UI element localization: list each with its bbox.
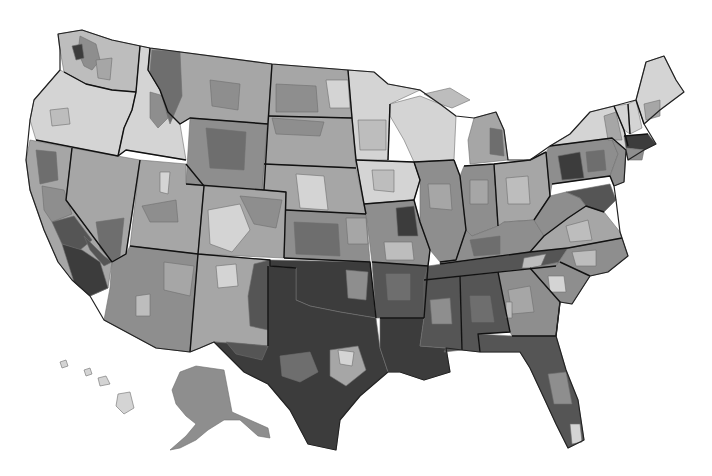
us-choropleth-map xyxy=(0,0,712,476)
state-kansas[interactable] xyxy=(284,210,370,262)
state-arizona[interactable] xyxy=(104,246,198,352)
state-iowa[interactable] xyxy=(356,160,420,204)
state-arkansas[interactable] xyxy=(372,262,428,318)
state-colorado[interactable] xyxy=(198,186,286,258)
state-alaska[interactable] xyxy=(170,366,270,450)
state-new-mexico[interactable] xyxy=(190,254,270,352)
state-hawaii[interactable] xyxy=(60,360,134,414)
state-north-dakota[interactable] xyxy=(268,64,352,118)
map-canvas xyxy=(0,0,712,476)
state-montana[interactable] xyxy=(148,48,272,124)
state-south-dakota[interactable] xyxy=(264,116,356,168)
state-florida[interactable] xyxy=(478,334,584,448)
state-maine[interactable] xyxy=(636,56,684,124)
state-connecticut[interactable] xyxy=(626,148,644,160)
